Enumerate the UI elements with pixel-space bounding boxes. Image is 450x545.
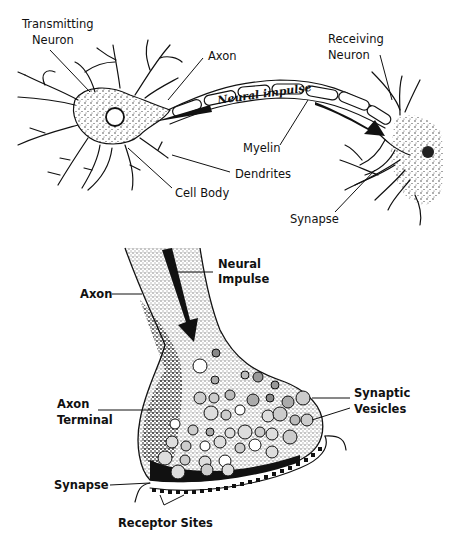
transmitting-neuron-label-line1: Transmitting [21,17,94,31]
dendrites-label: Dendrites [235,167,291,181]
neural-impulse-label-line2: Impulse [218,272,269,286]
transmitting-neuron-cell-body [73,88,170,144]
nucleus-icon [106,108,124,126]
receiving-neuron [340,72,444,225]
axon-terminal-label-line1: Axon [57,397,89,411]
receiving-neuron-label-line2: Neuron [328,48,370,62]
neuron-diagram: Neural impulse [0,0,450,545]
synapse-label-top: Synapse [290,212,339,226]
receiving-nucleus-icon [422,146,434,158]
synapse-label-bottom: Synapse [54,478,109,492]
receptor-sites-label: Receptor Sites [118,516,213,530]
axon-label-bottom: Axon [80,287,112,301]
axon-terminal-label-line2: Terminal [57,413,113,427]
transmitting-neuron-label-line2: Neuron [32,33,74,47]
neural-impulse-label-line1: Neural [218,257,261,271]
axon-terminal-panel: Neural Impulse Axon Axon Terminal Synapt… [54,248,410,530]
synaptic-vesicles-label-line2: Vesicles [354,402,406,416]
receiving-neuron-label-line1: Receiving [328,32,384,46]
cell-body-label: Cell Body [175,186,229,200]
myelin-label: Myelin [243,141,280,155]
top-neuron-panel: Neural impulse [18,17,444,226]
synaptic-vesicles-label-line1: Synaptic [354,386,410,400]
axon-label: Axon [208,49,237,63]
